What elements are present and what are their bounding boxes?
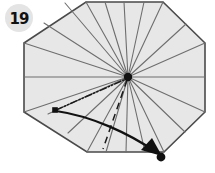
target-corner-point [157, 153, 166, 162]
figure-canvas: 19 [0, 0, 215, 173]
left-corner-point [52, 107, 58, 113]
origami-step-diagram: 19 [0, 0, 215, 173]
step-badge-label: 19 [10, 10, 29, 28]
step-badge: 19 [5, 4, 33, 32]
center-hub-point [124, 73, 132, 81]
